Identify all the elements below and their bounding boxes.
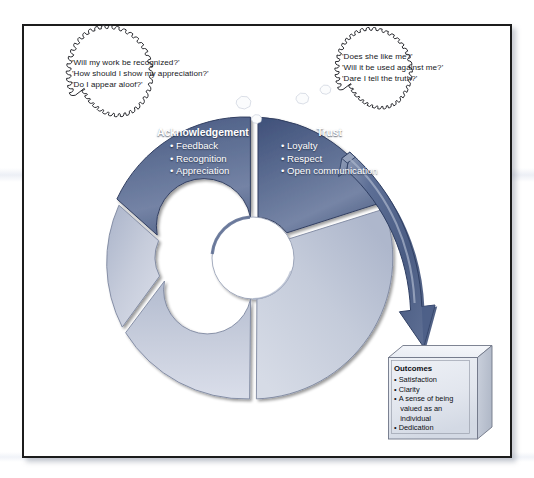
outcomes-item: • A sense of being valued as an individu… xyxy=(394,394,470,423)
outcomes-box-text: Outcomes • Satisfaction • Clarity • A se… xyxy=(394,364,470,433)
wheel-segment-trust-label: Trust • Loyalty • Respect • Open communi… xyxy=(281,127,378,178)
bubble-line: 'Will it be used against me?' xyxy=(342,62,443,73)
segment-bullet: • Appreciation xyxy=(170,165,249,178)
outcomes-item-continuation: valued as an xyxy=(400,404,470,414)
segment-bullets: • Loyalty • Respect • Open communication xyxy=(281,140,378,178)
wheel-segment-acknowledgement-label: Acknowledgement • Feedback • Recognition… xyxy=(157,127,249,178)
bubble-line: 'Will my work be recognized?' xyxy=(72,57,209,68)
outcomes-title: Outcomes xyxy=(394,364,470,374)
bubble-line: 'Do I appear aloof?' xyxy=(72,79,209,90)
bubble-line: 'How should I show my appreciation?' xyxy=(72,68,209,79)
thought-bubble-acknowledgement-text: 'Will my work be recognized?' 'How shoul… xyxy=(72,57,209,91)
segment-bullet: • Open communication xyxy=(281,165,378,178)
segment-bullets: • Feedback • Recognition • Appreciation xyxy=(157,140,249,178)
bubble-line: 'Dare I tell the truth?' xyxy=(342,73,443,84)
outcomes-item: • Clarity xyxy=(394,385,470,395)
segment-title: Trust xyxy=(281,127,378,140)
segment-bullet: • Loyalty xyxy=(281,140,378,153)
segment-bullet: • Recognition xyxy=(170,153,249,166)
outcomes-item: • Satisfaction xyxy=(394,375,470,385)
segment-bullet: • Feedback xyxy=(170,140,249,153)
segment-title: Acknowledgement xyxy=(157,127,249,140)
bubble-line: 'Does she like me?' xyxy=(342,51,443,62)
wheel-segment-4[interactable] xyxy=(126,281,251,399)
outcomes-item: • Dedication xyxy=(394,423,470,433)
thought-bubble-trust-text: 'Does she like me?' 'Will it be used aga… xyxy=(342,51,443,85)
segment-bullet: • Respect xyxy=(281,153,378,166)
outcomes-item-continuation: individual xyxy=(400,414,470,424)
